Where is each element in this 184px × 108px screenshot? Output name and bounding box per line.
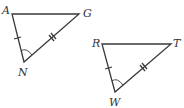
triangle-RTW	[102, 44, 171, 92]
triangle-AGN	[12, 14, 79, 62]
vertex-label-W: W	[109, 96, 122, 108]
vertex-label-T: T	[173, 37, 182, 50]
triangle-AGN-outline	[12, 14, 79, 62]
vertex-label-R: R	[91, 37, 100, 50]
geometry-figure: A G N R T W	[0, 0, 184, 108]
vertex-label-G: G	[83, 7, 92, 20]
angle-arc-W	[112, 80, 123, 85]
triangle-RTW-outline	[102, 44, 171, 92]
vertex-label-N: N	[17, 66, 28, 79]
vertex-label-A: A	[1, 4, 10, 17]
